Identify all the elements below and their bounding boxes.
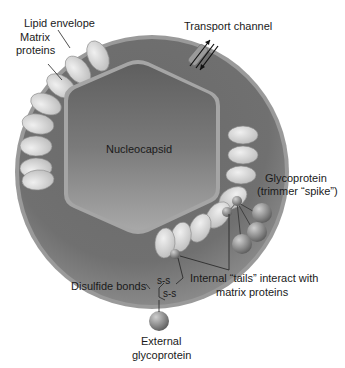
glycoprotein-label-2: (trimmer “spike”) xyxy=(257,185,338,198)
ss-bond-2: s-s xyxy=(163,287,176,300)
matrix-proteins-label-2: proteins xyxy=(16,44,55,57)
ss-bond-1: s-s xyxy=(157,274,170,287)
internal-tails-label-1: Internal “tails” interact with xyxy=(190,272,318,285)
external-glycoprotein xyxy=(149,311,169,331)
glycoprotein-label-1: Glycoprotein xyxy=(265,172,327,185)
lipid-envelope-label: Lipid envelope xyxy=(24,17,95,30)
internal-tails-label-2: matrix proteins xyxy=(216,286,288,299)
transport-channel-label: Transport channel xyxy=(184,20,272,33)
external-glycoprotein-label-1: External xyxy=(141,335,181,348)
external-glycoprotein-label-2: glycoprotein xyxy=(132,349,191,362)
internal-tail-sphere xyxy=(170,249,180,259)
virus-structure-diagram: Lipid envelope Matrix proteins Transport… xyxy=(0,0,345,368)
matrix-proteins-label-1: Matrix xyxy=(20,31,50,44)
nucleocapsid-label: Nucleocapsid xyxy=(106,143,172,156)
disulfide-bonds-label: Disulfide bonds xyxy=(71,280,146,293)
